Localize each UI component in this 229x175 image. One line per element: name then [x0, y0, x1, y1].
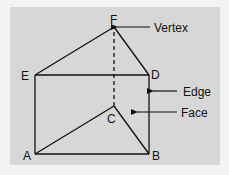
vertex-label-b: B — [152, 149, 160, 163]
face-annotation: Face — [181, 106, 208, 120]
vertex-label-c: C — [107, 112, 116, 126]
vertex-label-a: A — [23, 149, 31, 163]
vertex-label-f: F — [110, 13, 117, 27]
triangular-prism-diagram: F E D C A B Vertex Edge Face — [0, 0, 229, 175]
vertex-annotation: Vertex — [154, 21, 188, 35]
vertex-label-d: D — [151, 68, 160, 82]
edge-annotation: Edge — [183, 85, 211, 99]
vertex-label-e: E — [21, 69, 29, 83]
